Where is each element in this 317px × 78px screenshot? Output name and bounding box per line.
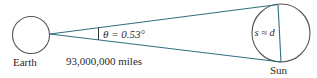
sun-diameter-chord (278, 5, 281, 63)
earth-sun-diagram: θ = 0.53° 93,000,000 miles Earth Sun s ≈… (0, 0, 317, 78)
upper-sight-line (50, 5, 278, 35)
chord-label: s ≈ d (255, 27, 276, 38)
sun-label: Sun (270, 64, 288, 76)
angle-label: θ = 0.53° (103, 28, 146, 40)
earth-label: Earth (13, 56, 37, 68)
earth-circle (13, 17, 50, 54)
distance-label: 93,000,000 miles (66, 55, 142, 67)
